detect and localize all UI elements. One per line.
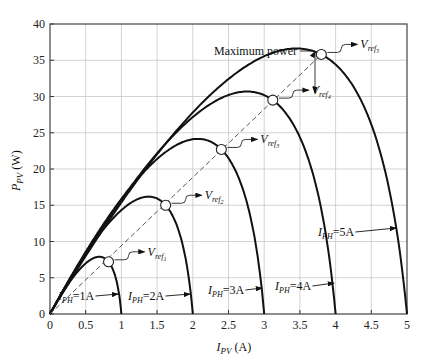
- mpp-dashed-line: [50, 54, 321, 314]
- x-tick-label: 4.5: [364, 318, 379, 332]
- x-tick-label: 0.5: [78, 318, 93, 332]
- x-tick-label: 2: [190, 318, 196, 332]
- x-tick-label: 5: [404, 318, 410, 332]
- mpp-marker: [161, 200, 171, 210]
- axes: 00.511.522.533.544.550510152025303540IPV…: [9, 17, 410, 356]
- vref-label: Vref2: [205, 188, 224, 205]
- y-tick-label: 25: [33, 126, 45, 140]
- y-tick-label: 5: [39, 271, 45, 285]
- y-tick-label: 15: [33, 198, 45, 212]
- x-tick-label: 1: [118, 318, 124, 332]
- y-tick-label: 30: [33, 90, 45, 104]
- annotations: Vref1Vref2Vref3Vref4Vref5Maximum powerIP…: [50, 37, 396, 314]
- mpp-marker: [216, 144, 226, 154]
- x-tick-label: 3: [261, 318, 267, 332]
- mpp-marker: [104, 257, 114, 267]
- iph-label: IPH=5A: [317, 225, 354, 241]
- y-tick-label: 10: [33, 235, 45, 249]
- pv-power-chart: 00.511.522.533.544.550510152025303540IPV…: [0, 0, 426, 359]
- iph-label: IPH=2A: [127, 289, 164, 305]
- y-tick-label: 35: [33, 53, 45, 67]
- x-tick-label: 1.5: [150, 318, 165, 332]
- maximum-power-label: Maximum power: [214, 44, 297, 58]
- mpp-marker: [316, 49, 326, 59]
- x-tick-label: 4: [333, 318, 339, 332]
- grid-lines: [50, 24, 407, 314]
- mpp-marker: [268, 95, 278, 105]
- x-tick-label: 2.5: [221, 318, 236, 332]
- x-axis-label: IPV (A): [216, 340, 252, 356]
- y-axis-label: PPV (W): [9, 150, 25, 192]
- iph-label: IPH=4A: [274, 279, 311, 295]
- iph-label: IPH=3A: [207, 283, 244, 299]
- vref-label: Vref3: [260, 132, 279, 149]
- vref-label: Vref5: [360, 37, 379, 54]
- y-tick-label: 40: [33, 17, 45, 31]
- y-tick-label: 20: [33, 162, 45, 176]
- x-tick-label: 3.5: [292, 318, 307, 332]
- y-tick-label: 0: [39, 307, 45, 321]
- x-tick-label: 0: [47, 318, 53, 332]
